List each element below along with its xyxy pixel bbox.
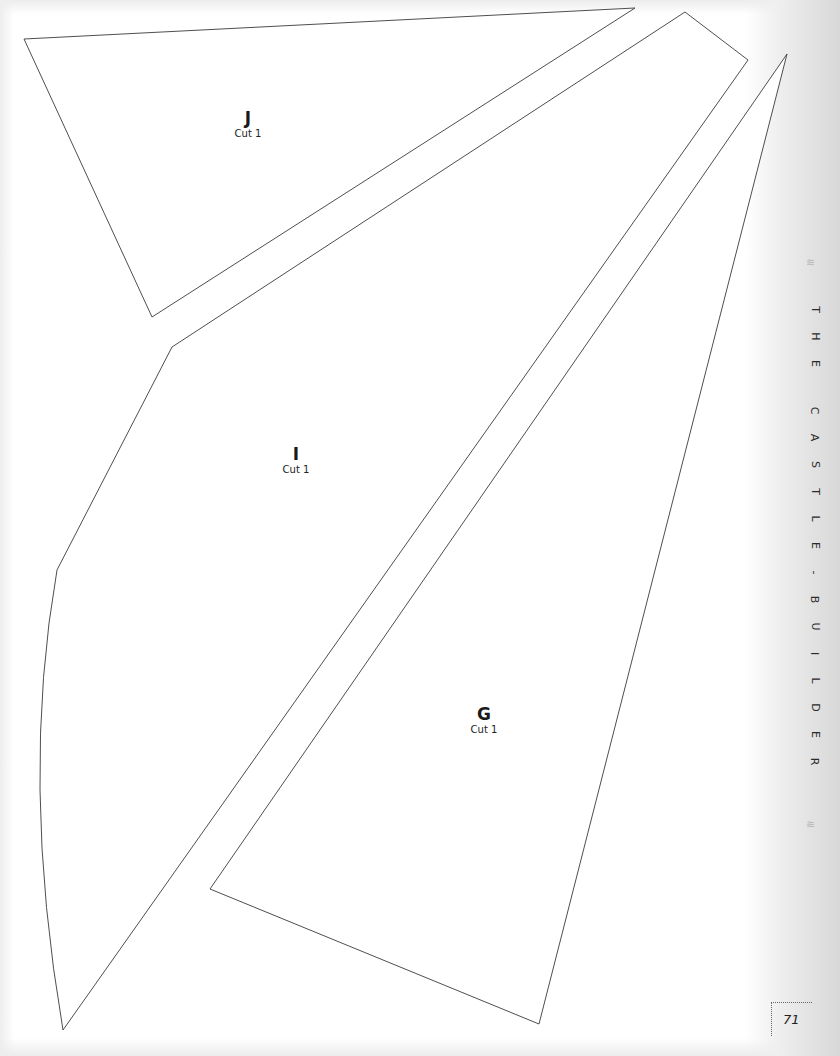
running-head-letter: T [801,488,828,495]
running-head-letter: L [801,515,828,521]
running-head-letter: S [801,461,828,468]
running-head-letter: I [802,652,829,655]
page-number: 71 [783,1012,800,1027]
running-head-letter: H [802,332,829,340]
pattern-pieces [0,0,840,1056]
page-number-box: 71 [771,1002,812,1036]
piece-label-g: G Cut 1 [458,706,510,735]
piece-label-j: J Cut 1 [222,110,274,139]
pattern-page: J Cut 1 I Cut 1 G Cut 1 ≋ THECASTLE-BUIL… [0,0,840,1056]
running-head-letter: L [801,677,828,683]
running-head: THECASTLE-BUILDER [804,296,826,775]
running-head-letter: B [801,596,828,604]
running-head-letter: T [801,306,828,313]
piece-cut-instruction: Cut 1 [270,465,322,475]
ornament-top-icon: ≋ [806,256,813,269]
piece-letter: J [222,110,274,127]
piece-cut-instruction: Cut 1 [222,129,274,139]
running-head-letter: E [801,731,828,738]
running-head-letter: R [802,758,829,766]
piece-cut-instruction: Cut 1 [458,725,510,735]
ornament-bottom-icon: ≋ [806,818,813,831]
piece-letter: I [270,446,322,463]
piece-letter: G [458,706,510,723]
running-head-letter: A [802,434,829,442]
running-head-letter: U [802,622,829,630]
running-head-letter: E [801,542,828,549]
piece-label-i: I Cut 1 [270,446,322,475]
running-head-letter: C [802,407,829,415]
running-head-letter: E [801,360,828,367]
running-head-letter: - [801,571,828,575]
running-head-letter: D [801,703,828,711]
